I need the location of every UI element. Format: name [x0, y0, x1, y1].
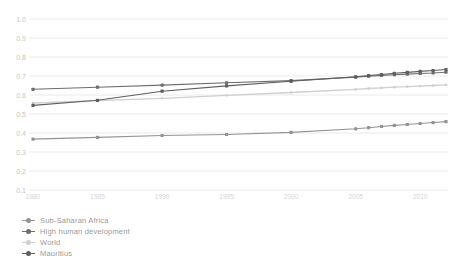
legend-label: Sub-Saharan Africa	[40, 216, 109, 225]
line-marker-icon	[22, 251, 35, 256]
svg-text:0.4: 0.4	[16, 130, 26, 137]
svg-text:1985: 1985	[90, 193, 105, 200]
legend-item-world: World	[22, 238, 130, 247]
legend-item-mauritius: Mauritius	[22, 249, 130, 258]
line-marker-icon	[22, 229, 35, 234]
svg-text:1995: 1995	[219, 193, 234, 200]
line-marker-icon	[22, 218, 35, 223]
svg-text:0.2: 0.2	[16, 168, 26, 175]
legend-label: Mauritius	[40, 249, 72, 258]
svg-text:0.6: 0.6	[16, 92, 26, 99]
chart-legend: Sub-Saharan Africa High human developmen…	[22, 216, 130, 258]
svg-text:2000: 2000	[284, 193, 299, 200]
line-marker-icon	[22, 240, 35, 245]
svg-text:0.7: 0.7	[16, 73, 26, 80]
svg-text:1.0: 1.0	[16, 16, 26, 23]
legend-item-high-human-development: High human development	[22, 227, 130, 236]
plot-area: 1.00.90.80.70.60.50.40.30.20.11980198519…	[0, 0, 449, 208]
legend-label: World	[40, 238, 60, 247]
svg-text:1990: 1990	[155, 193, 170, 200]
svg-text:0.8: 0.8	[16, 54, 26, 61]
svg-text:0.1: 0.1	[16, 187, 26, 194]
legend-label: High human development	[40, 227, 130, 236]
svg-text:0.5: 0.5	[16, 111, 26, 118]
svg-text:2010: 2010	[413, 193, 428, 200]
svg-text:2005: 2005	[348, 193, 363, 200]
legend-item-sub-saharan-africa: Sub-Saharan Africa	[22, 216, 130, 225]
svg-text:0.3: 0.3	[16, 149, 26, 156]
svg-text:1980: 1980	[26, 193, 41, 200]
hdi-trends-chart: 1.00.90.80.70.60.50.40.30.20.11980198519…	[0, 0, 449, 265]
svg-text:0.9: 0.9	[16, 35, 26, 42]
